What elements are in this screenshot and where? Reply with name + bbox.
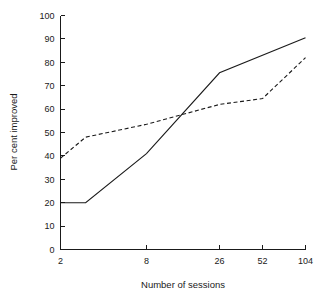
x-tick-label: 8	[144, 256, 149, 266]
chart-ticks: 0102030405060708090100282652104	[39, 11, 313, 266]
y-tick-label: 40	[44, 151, 54, 161]
y-tick-label: 90	[44, 34, 54, 44]
y-axis-title: Per cent improved	[8, 93, 19, 170]
chart-axes	[61, 16, 306, 250]
x-tick-label: 26	[215, 256, 225, 266]
line-chart: 0102030405060708090100282652104 Number o…	[0, 0, 323, 296]
y-tick-label: 0	[49, 245, 54, 255]
y-tick-label: 100	[39, 11, 54, 21]
series-solid	[61, 38, 306, 203]
y-tick-label: 10	[44, 221, 54, 231]
chart-series	[61, 38, 306, 203]
y-tick-label: 20	[44, 198, 54, 208]
y-tick-label: 30	[44, 175, 54, 185]
x-tick-label: 104	[298, 256, 313, 266]
x-axis-title: Number of sessions	[141, 279, 225, 290]
y-tick-label: 70	[44, 81, 54, 91]
x-tick-label: 2	[58, 256, 63, 266]
series-dashed	[61, 58, 306, 159]
chart-container: 0102030405060708090100282652104 Number o…	[0, 0, 323, 296]
y-tick-label: 50	[44, 128, 54, 138]
y-tick-label: 60	[44, 104, 54, 114]
axis-spine	[61, 16, 306, 250]
y-tick-label: 80	[44, 58, 54, 68]
x-tick-label: 52	[258, 256, 268, 266]
